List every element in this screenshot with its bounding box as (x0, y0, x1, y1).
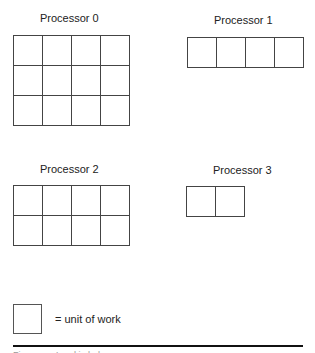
work-unit (14, 36, 43, 66)
work-unit (14, 96, 43, 126)
work-unit (187, 187, 216, 217)
figure-caption: Figure . . . Load imbalance (13, 349, 133, 353)
processor-1-work-grid (187, 37, 304, 68)
work-unit (72, 216, 101, 246)
work-unit (72, 96, 101, 126)
processor-3-work-grid (186, 186, 245, 217)
processor-0-label: Processor 0 (40, 12, 99, 24)
processor-0-work-grid (13, 35, 130, 126)
work-unit (101, 186, 130, 216)
work-unit (101, 216, 130, 246)
work-unit (275, 38, 304, 68)
work-unit (14, 66, 43, 96)
work-unit (101, 96, 130, 126)
work-unit (72, 36, 101, 66)
legend-unit-box (13, 304, 42, 334)
work-unit (43, 186, 72, 216)
work-unit (101, 36, 130, 66)
work-unit (72, 66, 101, 96)
work-unit (14, 186, 43, 216)
processor-3-label: Processor 3 (213, 164, 272, 176)
work-unit (246, 38, 275, 68)
processor-2-work-grid (13, 185, 130, 246)
work-unit (14, 216, 43, 246)
processor-2-label: Processor 2 (40, 163, 99, 175)
work-unit (72, 186, 101, 216)
processor-1-label: Processor 1 (214, 14, 273, 26)
work-unit (43, 216, 72, 246)
work-unit (43, 66, 72, 96)
work-unit (101, 66, 130, 96)
work-unit (216, 187, 245, 217)
caption-rule (13, 345, 303, 347)
work-unit (43, 96, 72, 126)
work-unit (217, 38, 246, 68)
work-unit (43, 36, 72, 66)
legend-text: = unit of work (55, 313, 121, 325)
work-unit (188, 38, 217, 68)
